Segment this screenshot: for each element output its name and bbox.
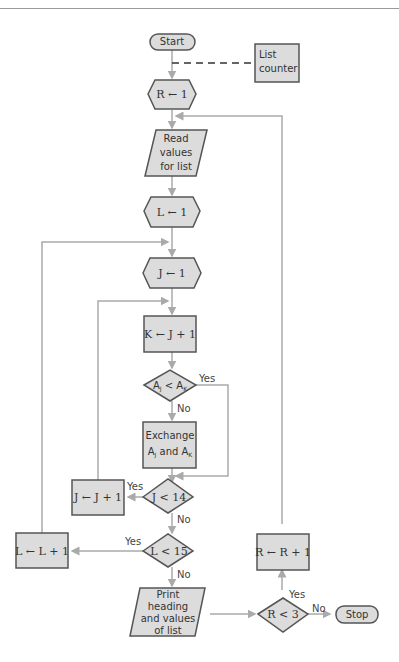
compare-no-label: No — [177, 403, 191, 414]
read-line-1: Read — [163, 133, 188, 144]
read-line-2: values — [160, 147, 193, 158]
l-test-yes-label: Yes — [124, 536, 141, 547]
j-init-label: J ← 1 — [157, 267, 186, 280]
l-test-no-label: No — [177, 569, 191, 580]
r-test-yes-label: Yes — [288, 589, 305, 600]
print-line-4: of list — [154, 625, 182, 636]
print-line-3: and values — [141, 613, 196, 624]
start-label: Start — [160, 36, 185, 47]
exchange-process — [143, 422, 196, 468]
r-init-label: R ← 1 — [156, 88, 188, 101]
flowchart: Start List counter R ← 1 Read values for… — [0, 0, 399, 662]
annotation-line-1: List — [259, 49, 277, 60]
l-test-label: L < 15 — [150, 545, 188, 558]
j-test-yes-label: Yes — [126, 481, 143, 492]
stop-label: Stop — [346, 609, 369, 620]
compare-yes-label: Yes — [198, 373, 215, 384]
r-test-no-label: No — [312, 603, 326, 614]
l-init-label: L ← 1 — [157, 206, 188, 219]
j-test-label: J < 14 — [151, 491, 187, 504]
j-test-no-label: No — [177, 514, 191, 525]
j-increment-label: J ← J + 1 — [73, 491, 122, 504]
print-line-1: Print — [156, 589, 179, 600]
print-line-2: heading — [148, 601, 188, 612]
r-test-label: R < 3 — [267, 608, 299, 621]
r-increment-label: R ← R + 1 — [255, 546, 311, 559]
k-assign-label: K ← J + 1 — [144, 328, 196, 341]
exchange-line-1: Exchange — [146, 430, 195, 441]
annotation-line-2: counter — [259, 63, 298, 74]
l-increment-label: L ← L + 1 — [15, 545, 69, 558]
read-line-3: for list — [160, 161, 192, 172]
